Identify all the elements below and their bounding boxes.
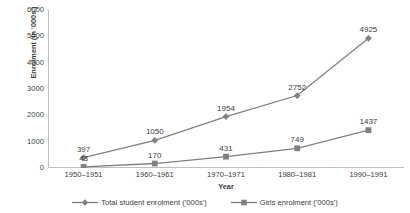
enrolment-line-chart: Enrolment (in '000s') 010002000300040005… <box>0 0 410 213</box>
y-tick-label: 0 <box>16 164 44 172</box>
y-axis-tick-labels: 0100020003000400050006000 <box>12 0 44 213</box>
x-tick-label: 1960–1961 <box>115 170 195 179</box>
data-point-marker <box>152 161 158 167</box>
legend-label: Total student enrolment ('000s') <box>101 198 206 207</box>
chart-legend: Total student enrolment ('000s')Girls en… <box>0 194 410 210</box>
data-point-marker <box>151 137 158 144</box>
y-tick-label: 6000 <box>16 6 44 14</box>
y-tick-label: 2000 <box>16 111 44 119</box>
y-tick-label: 5000 <box>16 32 44 40</box>
x-tick-label: 1980–1981 <box>257 170 337 179</box>
data-point-marker <box>294 145 300 151</box>
legend-item-0[interactable]: Total student enrolment ('000s') <box>72 198 206 207</box>
data-point-marker <box>81 164 87 168</box>
data-point-label: 170 <box>132 151 178 160</box>
data-point-label: 431 <box>203 144 249 153</box>
data-point-label: 2752 <box>274 83 320 92</box>
x-tick-label: 1990–1991 <box>328 170 408 179</box>
data-point-label: 1050 <box>132 127 178 136</box>
data-point-label: 1954 <box>203 104 249 113</box>
data-point-label: 43 <box>61 154 107 163</box>
x-tick-label: 1970–1971 <box>186 170 266 179</box>
series-line-0 <box>84 38 369 157</box>
legend-diamond-marker-icon <box>72 198 98 207</box>
data-point-label: 749 <box>274 135 320 144</box>
plot-area: 3971050195427524925431704317491437 <box>48 10 404 168</box>
x-tick-label: 1950–1951 <box>44 170 124 179</box>
data-point-marker <box>366 127 372 133</box>
legend-label: Girls enrolment ('000s') <box>260 198 338 207</box>
y-tick-label: 4000 <box>16 59 44 67</box>
legend-item-1[interactable]: Girls enrolment ('000s') <box>231 198 338 207</box>
x-axis-title: Year <box>48 182 404 191</box>
data-point-marker <box>223 154 229 160</box>
data-point-marker <box>223 113 230 120</box>
y-tick-label: 1000 <box>16 138 44 146</box>
legend-square-marker-icon <box>231 198 257 207</box>
y-tick-label: 3000 <box>16 85 44 93</box>
data-point-label: 4925 <box>345 25 391 34</box>
data-point-label: 1437 <box>345 117 391 126</box>
data-point-label: 397 <box>61 145 107 154</box>
